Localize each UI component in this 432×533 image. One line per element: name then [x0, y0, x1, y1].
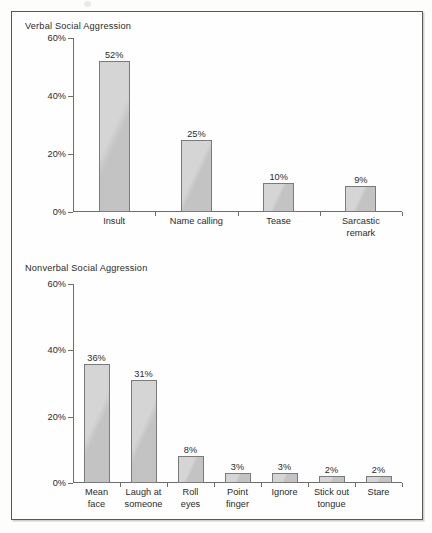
bar: 36%	[84, 364, 110, 483]
bar-value-label: 2%	[325, 465, 338, 475]
bar: 9%	[345, 186, 376, 212]
x-axis-category-label: Name calling	[170, 216, 223, 228]
y-axis-tick-label-nonverbal: 20%	[48, 412, 66, 422]
x-axis-separator-tick-nonverbal	[261, 483, 262, 487]
y-axis-tick-verbal	[68, 154, 73, 155]
y-axis-line-nonverbal	[73, 284, 74, 483]
plot-area-verbal: 0%20%40%60%52%Insult25%Name calling10%Te…	[73, 38, 402, 212]
panel-nonverbal-social-aggression: Nonverbal Social Aggression 0%20%40%60%3…	[12, 258, 422, 520]
y-axis-tick-verbal	[68, 38, 73, 39]
bar: 31%	[131, 380, 157, 483]
x-axis-separator-tick-nonverbal	[120, 483, 121, 487]
x-axis-separator-tick-verbal	[155, 212, 156, 216]
scan-artifact	[84, 1, 91, 7]
bar-value-label: 3%	[231, 462, 244, 472]
x-axis-category-label: Tease	[266, 216, 291, 228]
bar: 3%	[225, 473, 251, 483]
x-axis-separator-tick-nonverbal	[308, 483, 309, 487]
bar-value-label: 10%	[269, 172, 287, 182]
figure-page: Verbal Social Aggression 0%20%40%60%52%I…	[0, 0, 432, 533]
x-axis-category-label: Stare	[368, 487, 390, 499]
x-axis-separator-tick-nonverbal	[355, 483, 356, 487]
y-axis-tick-nonverbal	[68, 483, 73, 484]
y-axis-tick-nonverbal	[68, 350, 73, 351]
x-axis-separator-tick-verbal	[402, 212, 403, 216]
bar: 8%	[178, 456, 204, 483]
x-axis-category-label: Insult	[103, 216, 125, 228]
bar-value-label: 9%	[354, 175, 367, 185]
x-axis-separator-tick-verbal	[320, 212, 321, 216]
y-axis-tick-nonverbal	[68, 417, 73, 418]
bar-value-label: 3%	[278, 462, 291, 472]
y-axis-tick-nonverbal	[68, 284, 73, 285]
panel-title-nonverbal: Nonverbal Social Aggression	[25, 263, 147, 273]
y-axis-tick-label-nonverbal: 40%	[48, 345, 66, 355]
bar-value-label: 36%	[87, 353, 105, 363]
bar: 2%	[319, 476, 345, 483]
x-axis-category-label: Mean face	[85, 487, 108, 510]
x-axis-separator-tick-nonverbal	[214, 483, 215, 487]
bar: 10%	[263, 183, 294, 212]
bar: 52%	[99, 61, 130, 212]
bar-value-label: 8%	[184, 445, 197, 455]
plot-area-nonverbal: 0%20%40%60%36%Mean face31%Laugh at someo…	[73, 284, 402, 483]
x-axis-separator-tick-nonverbal	[402, 483, 403, 487]
bar-value-label: 25%	[187, 129, 205, 139]
x-axis-category-label: Sarcastic remark	[342, 216, 380, 239]
x-axis-category-label: Roll eyes	[181, 487, 200, 510]
x-axis-category-label: Stick out tongue	[314, 487, 349, 510]
bar: 3%	[272, 473, 298, 483]
y-axis-tick-label-verbal: 20%	[48, 149, 66, 159]
y-axis-tick-verbal	[68, 212, 73, 213]
figure-frame: Verbal Social Aggression 0%20%40%60%52%I…	[11, 11, 423, 520]
bar: 25%	[181, 140, 212, 213]
x-axis-category-label: Point finger	[226, 487, 249, 510]
x-axis-category-label: Ignore	[271, 487, 297, 499]
bar-value-label: 52%	[105, 50, 123, 60]
bar-value-label: 2%	[372, 465, 385, 475]
panel-verbal-social-aggression: Verbal Social Aggression 0%20%40%60%52%I…	[12, 12, 422, 258]
x-axis-separator-tick-nonverbal	[167, 483, 168, 487]
y-axis-tick-label-verbal: 60%	[48, 33, 66, 43]
x-axis-category-label: Laugh at someone	[125, 487, 163, 510]
y-axis-tick-label-nonverbal: 60%	[48, 279, 66, 289]
x-axis-separator-tick-verbal	[238, 212, 239, 216]
y-axis-tick-label-verbal: 40%	[48, 91, 66, 101]
y-axis-tick-verbal	[68, 96, 73, 97]
y-axis-line-verbal	[73, 38, 74, 212]
bar-value-label: 31%	[134, 369, 152, 379]
panel-title-verbal: Verbal Social Aggression	[25, 21, 131, 31]
y-axis-tick-label-verbal: 0%	[53, 207, 66, 217]
bar: 2%	[366, 476, 392, 483]
y-axis-tick-label-nonverbal: 0%	[53, 478, 66, 488]
